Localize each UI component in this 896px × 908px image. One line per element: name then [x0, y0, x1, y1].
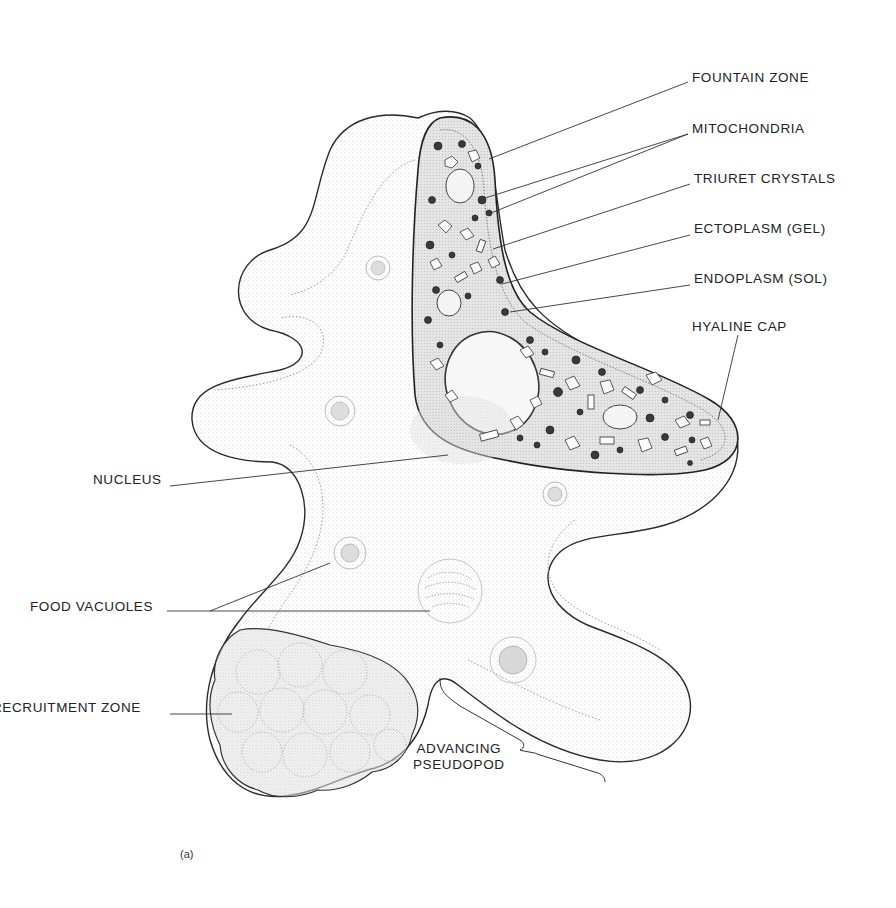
label-nucleus: NUCLEUS: [93, 473, 162, 487]
label-hyaline-cap: HYALINE CAP: [692, 320, 787, 334]
cutaway-section: [410, 117, 738, 475]
label-triuret-crystals: TRIURET CRYSTALS: [694, 172, 836, 186]
label-endoplasm: ENDOPLASM (SOL): [694, 272, 828, 286]
label-recruitment-zone: RECRUITMENT ZONE: [0, 701, 141, 715]
label-advancing-pseudopod: ADVANCING PSEUDOPOD: [413, 741, 505, 773]
label-fountain-zone: FOUNTAIN ZONE: [692, 71, 809, 85]
label-ectoplasm: ECTOPLASM (GEL): [694, 222, 826, 236]
label-food-vacuoles: FOOD VACUOLES: [30, 600, 153, 614]
figure-caption: (a): [180, 848, 193, 860]
label-mitochondria: MITOCHONDRIA: [692, 122, 805, 136]
